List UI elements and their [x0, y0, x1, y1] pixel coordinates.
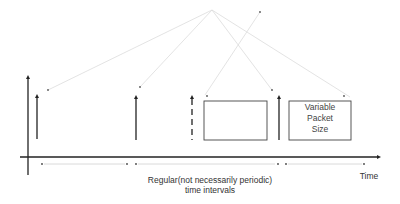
- packet-impulse-2: [134, 95, 138, 140]
- interval-label-line2: time intervals: [120, 185, 300, 195]
- packet-size-label-line3: Size: [289, 124, 351, 135]
- packet-impulse-dashed: [190, 95, 194, 140]
- x-axis-label: Time: [354, 171, 384, 181]
- y-axis: [26, 75, 30, 175]
- packet-size-label: Variable Packet Size: [289, 102, 351, 135]
- packet-box-1: [204, 101, 267, 140]
- annotation-dots: [47, 11, 345, 97]
- interval-label-line1: Regular(not necessarily periodic): [120, 175, 300, 185]
- packet-size-label-line2: Packet: [289, 113, 351, 124]
- packet-impulse-3: [277, 95, 281, 140]
- x-axis: [20, 155, 381, 159]
- packet-size-label-line1: Variable: [289, 102, 351, 113]
- interval-markers: [41, 163, 365, 165]
- annotation-guide-lines: [48, 10, 350, 97]
- packet-impulse-1: [35, 94, 39, 139]
